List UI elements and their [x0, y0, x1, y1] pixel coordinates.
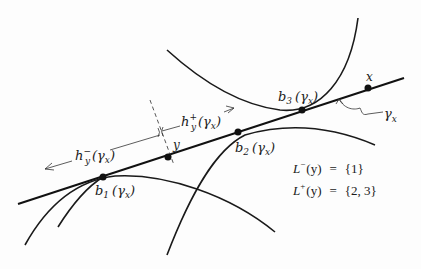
h-minus-label: h−y(γx): [75, 146, 115, 166]
h-plus-arrow-line-left: [162, 126, 180, 131]
y-label: y: [172, 138, 180, 152]
h-plus-arrow-line: [224, 108, 234, 112]
diagram-canvas: γx b1(γx) y b2(γx) b3(γx) x h−y(γx) h+y(…: [0, 0, 421, 269]
b2-label: b2(γx): [235, 140, 275, 157]
point-b2: [235, 129, 242, 136]
gamma-x-pointer: [339, 99, 383, 115]
h-minus-arrow-line: [45, 161, 72, 169]
l-minus-set: L−(y)={1}: [292, 159, 364, 176]
point-y: [165, 154, 172, 161]
gamma-x-label: γx: [384, 106, 397, 124]
point-x: [365, 85, 372, 92]
h-plus-label: h+y(γx): [181, 112, 221, 132]
x-label: x: [366, 70, 373, 84]
l-plus-set: L+(y)={2, 3}: [292, 181, 377, 198]
h-minus-arrow-line-right: [110, 135, 160, 150]
upper-curve: [167, 18, 358, 110]
arc-curve: [25, 176, 275, 245]
b3-label: b3(γx): [278, 89, 318, 106]
point-b3: [299, 107, 306, 114]
b1-label: b1(γx): [95, 183, 135, 200]
point-b1: [100, 174, 107, 181]
